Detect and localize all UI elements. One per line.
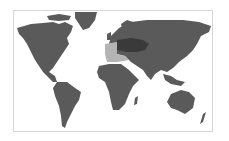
madagascar <box>134 96 138 105</box>
southeast-asia-islands <box>163 74 185 86</box>
north-america <box>17 22 73 82</box>
new-zealand <box>200 112 206 124</box>
south-america <box>53 82 81 128</box>
australia <box>167 90 195 114</box>
world-map <box>13 10 213 132</box>
greenland <box>75 12 97 30</box>
british-isles <box>107 32 111 40</box>
arctic-islands <box>47 14 71 21</box>
africa <box>97 64 139 110</box>
